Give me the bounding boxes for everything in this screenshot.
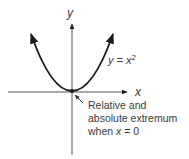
x-axis-label: x bbox=[134, 85, 142, 99]
vertex-point bbox=[70, 89, 74, 93]
annotation-pointer-arrow bbox=[75, 95, 83, 103]
equation-text: y = x bbox=[107, 54, 132, 66]
parabola-right-branch bbox=[72, 34, 113, 91]
annotation-line-2: absolute extremum bbox=[88, 112, 178, 124]
y-axis-label: y bbox=[66, 6, 74, 20]
annotation-line-3: when x = 0 bbox=[87, 125, 139, 137]
annotation-line-1: Relative and bbox=[88, 99, 147, 111]
equation-label: y = x2 bbox=[107, 53, 137, 66]
parabola-left-branch bbox=[31, 34, 72, 91]
equation-exponent: 2 bbox=[132, 53, 137, 62]
annotation-line-3-suffix: = 0 bbox=[121, 125, 139, 137]
annotation-line-3-prefix: when bbox=[87, 125, 116, 137]
parabola-diagram: x y y = x2 Relative and absolute extremu… bbox=[0, 0, 189, 159]
